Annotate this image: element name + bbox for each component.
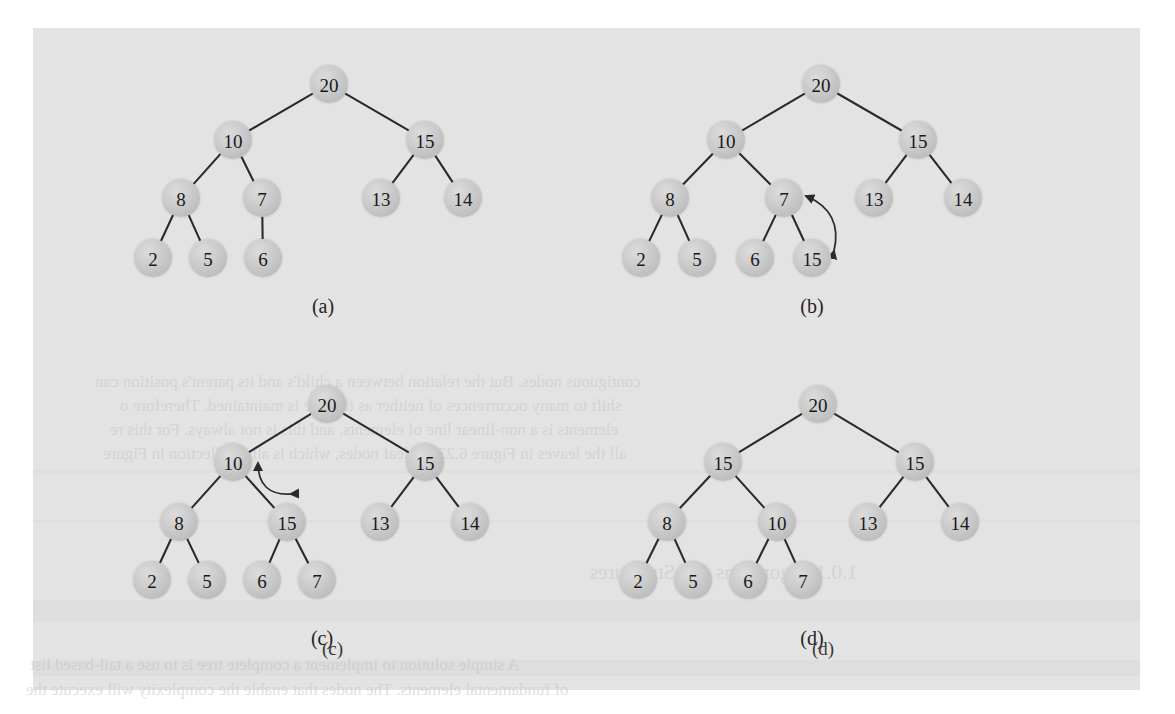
scanned-page-panel — [33, 28, 1140, 690]
figure-root: contiguous nodes. But the relation betwe… — [0, 0, 1175, 714]
